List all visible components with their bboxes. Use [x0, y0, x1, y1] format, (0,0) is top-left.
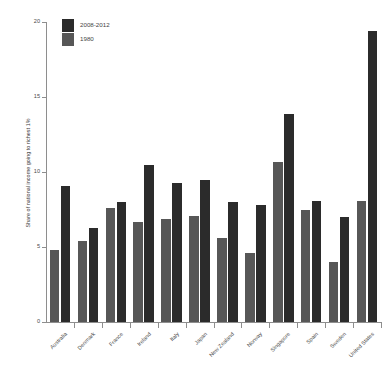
bar	[228, 202, 238, 322]
bar	[329, 262, 339, 322]
bar	[144, 165, 154, 323]
y-axis-tick-label: 10	[34, 168, 40, 174]
y-axis-title: Share of national income going to riches…	[25, 73, 31, 273]
bar	[217, 238, 227, 322]
bar	[189, 216, 199, 323]
bar	[301, 210, 311, 323]
bar	[106, 208, 116, 322]
bar	[357, 201, 367, 323]
bar-group	[189, 22, 210, 322]
legend-swatch-1980	[62, 33, 74, 46]
x-axis-tick	[102, 323, 103, 328]
x-axis-tick	[381, 323, 382, 328]
bar	[161, 219, 171, 323]
x-axis-tick	[214, 323, 215, 328]
bar	[245, 253, 255, 322]
y-axis-tick-label: 5	[37, 243, 40, 249]
y-axis-tick-mark	[42, 22, 47, 23]
y-axis-tick-mark	[42, 247, 47, 248]
bar	[200, 180, 210, 323]
x-axis-tick	[186, 323, 187, 328]
bar	[273, 162, 283, 323]
bar	[172, 183, 182, 323]
y-axis-tick: 5	[42, 247, 47, 248]
bar-group	[217, 22, 238, 322]
bar-group	[357, 22, 378, 322]
bar	[340, 217, 350, 322]
bar-chart: Share of national income going to riches…	[0, 0, 386, 385]
x-axis-tick	[353, 323, 354, 328]
y-axis-tick-mark	[42, 97, 47, 98]
plot-area: 05101520	[46, 22, 381, 322]
bar	[133, 222, 143, 323]
bar-group	[50, 22, 71, 322]
y-axis-tick-label: 20	[34, 18, 40, 24]
bar	[312, 201, 322, 323]
x-axis-tick	[130, 323, 131, 328]
bar	[256, 205, 266, 322]
bar-group	[106, 22, 127, 322]
bar-group	[301, 22, 322, 322]
bar	[50, 250, 60, 322]
y-axis-tick: 0	[42, 322, 47, 323]
y-axis-tick-label: 0	[37, 318, 40, 324]
x-axis-tick	[158, 323, 159, 328]
y-axis-tick: 10	[42, 172, 47, 173]
x-axis-tick	[241, 323, 242, 328]
x-axis-tick	[325, 323, 326, 328]
x-axis-category-label: Australia	[0, 331, 68, 385]
bar-group	[329, 22, 350, 322]
x-axis-tick	[297, 323, 298, 328]
legend-swatch-2008-2012	[62, 19, 74, 32]
y-axis-tick: 20	[42, 22, 47, 23]
x-axis-tick	[74, 323, 75, 328]
bar	[117, 202, 127, 322]
bar-group	[161, 22, 182, 322]
x-axis-tick	[269, 323, 270, 328]
y-axis-tick-label: 15	[34, 93, 40, 99]
bar	[89, 228, 99, 323]
bar-group	[273, 22, 294, 322]
bar-group	[245, 22, 266, 322]
bar	[78, 241, 88, 322]
bar-group	[133, 22, 154, 322]
bar	[284, 114, 294, 323]
bar-group	[78, 22, 99, 322]
legend-label-2008-2012: 2008-2012	[80, 21, 110, 28]
y-axis-tick: 15	[42, 97, 47, 98]
bar	[368, 31, 378, 322]
bar	[61, 186, 71, 323]
y-axis-tick-mark	[42, 322, 47, 323]
legend-label-1980: 1980	[80, 35, 94, 42]
y-axis-tick-mark	[42, 172, 47, 173]
